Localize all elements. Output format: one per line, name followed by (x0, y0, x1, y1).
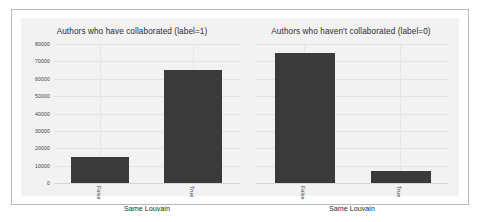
gridline-0: 0 (54, 183, 240, 184)
chart-panel-collaborated: Authors who have collaborated (label=1) … (21, 18, 243, 196)
ytick-label-40000: 40000 (35, 111, 50, 117)
gridline-80000: 80000 (54, 44, 240, 45)
chart-panel-not-collaborated: Authors who haven't collaborated (label=… (243, 18, 459, 196)
figure-frame: Authors who have collaborated (label=1) … (11, 9, 469, 205)
xaxis-label-left: Same Louvain (54, 204, 240, 213)
ytick-label-10000: 10000 (35, 163, 50, 169)
ytick-label-0: 0 (47, 180, 50, 186)
xtick-label-false-left: False (96, 186, 102, 200)
ytick-label-80000: 80000 (35, 41, 50, 47)
xtick-label-false-right: False (300, 186, 306, 200)
bar-false-collaborated[interactable] (71, 157, 129, 183)
plot-area-left: 80000 70000 60000 50000 40000 30000 (54, 44, 240, 183)
xtick-label-true-right: True (396, 186, 402, 197)
ytick-label-70000: 70000 (35, 58, 50, 64)
panel-title-left: Authors who have collaborated (label=1) (21, 27, 243, 36)
vgridline-true-right (400, 44, 401, 183)
figure-canvas: Authors who have collaborated (label=1) … (21, 18, 459, 196)
bar-true-collaborated[interactable] (164, 70, 222, 183)
ytick-label-60000: 60000 (35, 76, 50, 82)
plot-area-right: False True Same Louvain (256, 44, 448, 183)
ytick-label-30000: 30000 (35, 128, 50, 134)
bar-true-not-collaborated[interactable] (371, 171, 431, 183)
gridline-0-right (256, 183, 448, 184)
xtick-label-true-left: True (189, 186, 195, 197)
ytick-label-50000: 50000 (35, 93, 50, 99)
ytick-label-20000: 20000 (35, 145, 50, 151)
xaxis-label-right: Same Louvain (256, 204, 448, 213)
gridline-80000-right (256, 44, 448, 45)
bar-false-not-collaborated[interactable] (275, 53, 335, 183)
gridline-70000: 70000 (54, 61, 240, 62)
panel-title-right: Authors who haven't collaborated (label=… (243, 27, 459, 36)
